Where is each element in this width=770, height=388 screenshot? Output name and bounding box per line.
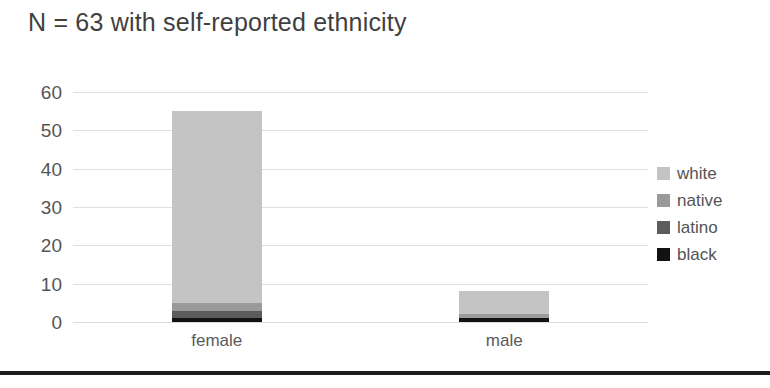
- stacked-bar-chart: N = 63 with self-reported ethnicity 0102…: [0, 0, 770, 388]
- chart-legend: whitenativelatinoblack: [657, 160, 765, 268]
- y-tick-label: 30: [0, 198, 62, 217]
- legend-entry-white[interactable]: white: [657, 160, 765, 187]
- plot-area: [73, 92, 648, 322]
- gridline: [73, 322, 648, 323]
- bar-segment-male-white[interactable]: [459, 291, 549, 314]
- bar-segment-male-black[interactable]: [459, 318, 549, 322]
- y-tick-label: 50: [0, 121, 62, 140]
- x-tick-label-female: female: [191, 331, 242, 351]
- bar-stack-male[interactable]: [459, 291, 549, 322]
- legend-entry-native[interactable]: native: [657, 187, 765, 214]
- y-tick-label: 0: [0, 313, 62, 332]
- legend-swatch-latino-icon: [657, 221, 670, 234]
- legend-swatch-white-icon: [657, 167, 670, 180]
- bar-stack-female[interactable]: [172, 111, 262, 322]
- legend-swatch-black-icon: [657, 248, 670, 261]
- y-tick-label: 60: [0, 83, 62, 102]
- bottom-divider: [0, 371, 770, 375]
- gridline: [73, 130, 648, 131]
- gridline: [73, 245, 648, 246]
- legend-label-white: white: [677, 165, 717, 182]
- bar-segment-female-native[interactable]: [172, 303, 262, 311]
- bar-segment-female-white[interactable]: [172, 111, 262, 303]
- chart-title: N = 63 with self-reported ethnicity: [28, 8, 407, 37]
- legend-label-black: black: [677, 246, 717, 263]
- legend-swatch-native-icon: [657, 194, 670, 207]
- gridline: [73, 284, 648, 285]
- bar-segment-female-black[interactable]: [172, 318, 262, 322]
- y-axis: 0102030405060: [0, 92, 62, 322]
- y-tick-label: 20: [0, 236, 62, 255]
- legend-entry-black[interactable]: black: [657, 241, 765, 268]
- legend-label-latino: latino: [677, 219, 718, 236]
- bar-segment-female-latino[interactable]: [172, 311, 262, 319]
- legend-label-native: native: [677, 192, 722, 209]
- y-tick-label: 40: [0, 159, 62, 178]
- y-tick-label: 10: [0, 274, 62, 293]
- x-tick-label-male: male: [486, 331, 523, 351]
- legend-entry-latino[interactable]: latino: [657, 214, 765, 241]
- gridline: [73, 207, 648, 208]
- x-axis: femalemale: [73, 331, 648, 357]
- gridline: [73, 169, 648, 170]
- gridline: [73, 92, 648, 93]
